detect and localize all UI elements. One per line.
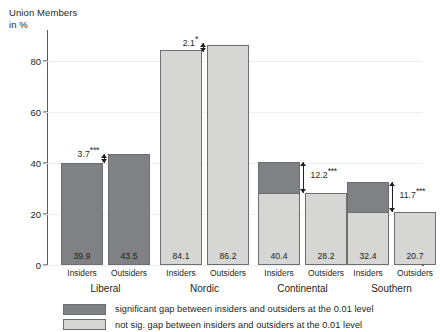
y-tick-label: 40	[30, 157, 41, 168]
x-tick-label-insiders: Insiders	[342, 268, 394, 278]
bar-continental-insiders: 40.4	[258, 162, 300, 265]
x-tick-label-insiders: Insiders	[253, 268, 305, 278]
plot-area: 02040608039.943.53.7***84.186.22.1*40.42…	[47, 30, 422, 265]
gridline	[47, 265, 422, 266]
gap-label-liberal: 3.7***	[78, 145, 99, 159]
y-axis-title: Union Members in %	[9, 7, 77, 30]
arrow-head-down	[101, 159, 107, 163]
legend-swatch-light	[63, 319, 106, 330]
bar-liberal-insiders: 39.9	[61, 163, 103, 265]
arrow-head-down	[300, 189, 306, 193]
bar-segment-base	[109, 155, 149, 264]
y-tick-label: 80	[30, 55, 41, 66]
y-tick-label: 0	[36, 260, 41, 271]
bar-value-label: 39.9	[62, 251, 102, 261]
bar-value-label: 84.1	[161, 251, 201, 261]
arrow-head-down	[200, 48, 206, 52]
x-tick-label-outsiders: Outsiders	[103, 268, 155, 278]
y-tick-mark	[43, 162, 47, 163]
group-label-southern: Southern	[337, 283, 440, 294]
bar-value-label: 32.4	[348, 251, 388, 261]
bar-segment-gap	[348, 183, 388, 213]
x-tick-label-outsiders: Outsiders	[389, 268, 440, 278]
bar-continental-outsiders: 28.2	[305, 193, 347, 265]
gap-arrow-liberal	[101, 154, 108, 163]
bar-nordic-insiders: 84.1	[160, 50, 202, 265]
arrow-head-up	[389, 182, 395, 186]
gap-arrow-nordic	[200, 43, 207, 52]
gap-arrow-continental	[300, 162, 307, 193]
x-tick-label-insiders: Insiders	[155, 268, 207, 278]
gap-label-nordic: 2.1*	[183, 34, 198, 48]
bar-value-label: 43.5	[109, 251, 149, 261]
bar-value-label: 40.4	[259, 251, 299, 261]
bar-liberal-outsiders: 43.5	[108, 154, 150, 265]
legend-swatch-dark	[63, 304, 106, 315]
x-tick-label-outsiders: Outsiders	[202, 268, 254, 278]
arrow-head-down	[389, 208, 395, 212]
chart-legend: significant gap between insiders and out…	[63, 303, 374, 332]
legend-item-dark: significant gap between insiders and out…	[63, 303, 374, 316]
group-label-nordic: Nordic	[150, 283, 259, 294]
bar-southern-outsiders: 20.7	[394, 212, 436, 265]
y-tick-mark	[43, 111, 47, 112]
group-label-liberal: Liberal	[51, 283, 160, 294]
gap-label-continental: 12.2***	[311, 166, 337, 180]
bar-segment-base	[161, 51, 201, 264]
arrow-head-up	[101, 154, 107, 158]
legend-label: significant gap between insiders and out…	[115, 304, 374, 314]
bar-value-label: 28.2	[306, 251, 346, 261]
y-tick-mark	[43, 60, 47, 61]
bar-value-label: 86.2	[208, 251, 248, 261]
bar-value-label: 20.7	[395, 251, 435, 261]
gap-label-southern: 11.7***	[400, 186, 426, 200]
bar-segment-gap	[259, 163, 299, 194]
x-tick-label-insiders: Insiders	[56, 268, 108, 278]
bar-segment-base	[62, 164, 102, 264]
arrow-head-up	[200, 43, 206, 47]
arrow-head-up	[300, 162, 306, 166]
y-tick-mark	[43, 213, 47, 214]
gap-arrow-southern	[389, 182, 396, 212]
bar-southern-insiders: 32.4	[347, 182, 389, 265]
bar-nordic-outsiders: 86.2	[207, 45, 249, 265]
legend-label: not sig. gap between insiders and outsid…	[115, 320, 362, 330]
legend-item-light: not sig. gap between insiders and outsid…	[63, 319, 374, 332]
bar-segment-base	[208, 46, 248, 264]
y-tick-mark	[43, 264, 47, 265]
y-tick-label: 60	[30, 106, 41, 117]
y-tick-label: 20	[30, 208, 41, 219]
